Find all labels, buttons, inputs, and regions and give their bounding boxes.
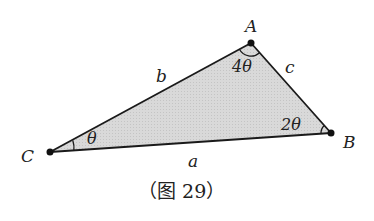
- figure-caption: （图 29）: [138, 180, 225, 202]
- angle-b-label: 2θ: [280, 115, 301, 134]
- side-b-label: b: [156, 66, 167, 86]
- side-a-label: a: [188, 151, 198, 171]
- vertex-c-label: C: [21, 146, 34, 166]
- vertex-b-dot: [328, 130, 335, 137]
- vertex-a-label: A: [243, 16, 257, 36]
- triangle-diagram: A B C b c a 4θ 2θ θ （图 29）: [0, 0, 374, 221]
- angle-a-label: 4θ: [231, 57, 252, 76]
- side-c-label: c: [285, 57, 295, 77]
- vertex-b-label: B: [342, 132, 356, 152]
- vertex-c-dot: [47, 149, 54, 156]
- angle-c-label: θ: [87, 129, 97, 148]
- vertex-a-dot: [248, 40, 255, 47]
